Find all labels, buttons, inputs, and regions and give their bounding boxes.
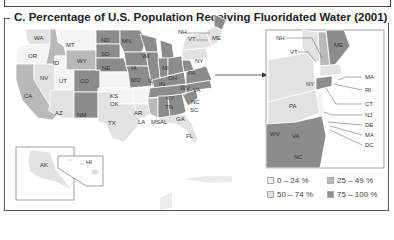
state-MI	[160, 40, 174, 60]
svg-text:AZ: AZ	[55, 110, 63, 116]
legend-item-25-49: 25 – 49 %	[327, 176, 373, 185]
svg-text:IA: IA	[131, 65, 137, 71]
svg-text:AL: AL	[160, 119, 168, 125]
legend-item-0-24: 0 – 24 %	[267, 176, 309, 185]
zoom-arrow-icon	[215, 73, 268, 78]
svg-text:LA: LA	[138, 119, 145, 125]
svg-text:OK: OK	[110, 101, 119, 107]
svg-text:OR: OR	[28, 53, 38, 59]
svg-text:PA: PA	[289, 103, 297, 109]
svg-text:ME: ME	[212, 35, 221, 41]
legend-label: 25 – 49 %	[337, 176, 373, 185]
svg-text:PA: PA	[188, 70, 196, 76]
svg-text:DC: DC	[365, 142, 374, 148]
svg-text:CO: CO	[80, 78, 89, 84]
svg-text:CT: CT	[365, 101, 373, 107]
svg-text:NY: NY	[306, 81, 314, 87]
svg-text:VA: VA	[292, 133, 300, 139]
legend-item-75-100: 75 – 100 %	[327, 190, 377, 199]
svg-text:NH: NH	[276, 35, 285, 41]
svg-text:AR: AR	[134, 110, 143, 116]
svg-text:NE: NE	[102, 65, 110, 71]
svg-text:DE: DE	[365, 122, 373, 128]
legend-swatch	[327, 191, 334, 198]
svg-text:UT: UT	[59, 78, 67, 84]
inset-state-MA	[320, 64, 342, 76]
svg-text:FL: FL	[186, 133, 194, 139]
legend-swatch	[327, 177, 334, 184]
svg-text:WY: WY	[77, 58, 87, 64]
svg-text:AK: AK	[40, 162, 48, 168]
state-AR	[132, 88, 150, 104]
state-NE	[96, 58, 128, 72]
legend-label: 0 – 24 %	[277, 176, 309, 185]
svg-text:VA: VA	[193, 87, 201, 93]
svg-text:SD: SD	[101, 51, 110, 57]
svg-text:WV: WV	[180, 85, 190, 91]
svg-text:KY: KY	[166, 95, 174, 101]
svg-text:CA: CA	[24, 93, 32, 99]
svg-text:MT: MT	[66, 42, 75, 48]
svg-text:IN: IN	[159, 81, 165, 87]
svg-text:HI: HI	[86, 159, 92, 165]
svg-text:NV: NV	[40, 75, 48, 81]
inset-state-south	[266, 116, 326, 168]
state-KS	[100, 72, 130, 88]
svg-text:ID: ID	[53, 60, 60, 66]
svg-text:OH: OH	[168, 75, 177, 81]
mexico-coast	[160, 192, 172, 210]
svg-text:WV: WV	[270, 131, 280, 137]
legend-item-50-74: 50 – 74 %	[267, 190, 313, 199]
svg-text:NJ: NJ	[365, 112, 372, 118]
svg-text:GA: GA	[176, 116, 185, 122]
legend-label: 75 – 100 %	[337, 190, 377, 199]
svg-text:NM: NM	[77, 112, 86, 118]
svg-text:VT: VT	[188, 36, 196, 42]
legend-swatch	[267, 191, 274, 198]
svg-text:MO: MO	[131, 77, 141, 83]
svg-text:MA: MA	[365, 132, 374, 138]
svg-text:NY: NY	[195, 58, 203, 64]
svg-text:IL: IL	[148, 78, 154, 84]
state-MS	[148, 98, 158, 118]
svg-text:KS: KS	[110, 93, 118, 99]
legend-swatch	[267, 177, 274, 184]
svg-text:NC: NC	[191, 99, 200, 105]
legend-label: 50 – 74 %	[277, 190, 313, 199]
svg-text:MI: MI	[162, 65, 169, 71]
svg-text:MN: MN	[122, 38, 131, 44]
svg-text:WI: WI	[142, 53, 150, 59]
svg-text:ME: ME	[334, 42, 343, 48]
caribbean-islands	[183, 176, 232, 183]
svg-text:WA: WA	[34, 35, 43, 41]
svg-text:NH: NH	[178, 29, 187, 35]
svg-text:ND: ND	[101, 37, 110, 43]
svg-text:TX: TX	[108, 120, 116, 126]
svg-text:MA: MA	[365, 74, 374, 80]
svg-text:RI: RI	[365, 87, 371, 93]
svg-text:VT: VT	[290, 49, 298, 55]
svg-text:TN: TN	[165, 104, 173, 110]
svg-text:MS: MS	[151, 119, 160, 125]
svg-text:NC: NC	[294, 154, 303, 160]
svg-text:SC: SC	[190, 107, 199, 113]
